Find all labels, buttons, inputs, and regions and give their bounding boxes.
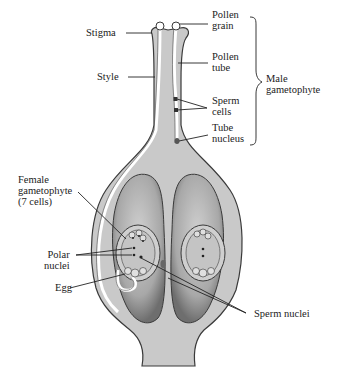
pollen-grain-left (156, 22, 164, 30)
label-sperm-nuclei: Sperm nuclei (254, 308, 310, 319)
polar-nucleus-1 (133, 247, 136, 250)
label-sperm-cells: Sperm cells (212, 95, 239, 117)
label-pollen-grain: Pollen grain (212, 9, 239, 31)
label-tube-nucleus: Tube nucleus (212, 122, 244, 144)
sperm-cell-1 (174, 97, 178, 101)
label-male-gametophyte: Male gametophyte (266, 73, 320, 95)
label-stigma: Stigma (86, 27, 116, 38)
tube-nucleus (175, 138, 180, 144)
pollen-grain-right (172, 22, 180, 30)
egg-cell (131, 269, 139, 277)
embryo-sac-right (181, 225, 225, 281)
label-female-gametophyte: Female gametophyte (7 cells) (18, 174, 72, 207)
label-pollen-tube: Pollen tube (212, 51, 239, 73)
label-style: Style (97, 71, 119, 82)
label-polar-nuclei: Polar nuclei (44, 249, 70, 271)
polar-nucleus-2 (133, 254, 136, 257)
pistil-diagram: Stigma Style Pollen grain Pollen tube Sp… (0, 0, 339, 379)
label-egg: Egg (55, 282, 72, 293)
